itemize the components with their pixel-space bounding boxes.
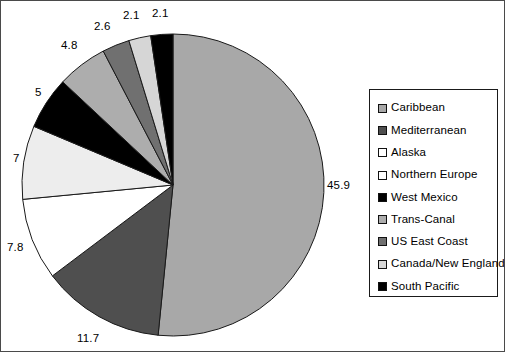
legend-swatch-mediterranean <box>378 126 387 135</box>
legend-row[interactable]: Caribbean <box>378 97 497 119</box>
legend-row[interactable]: US East Coast <box>378 231 497 253</box>
legend-item-label: Alaska <box>391 147 426 159</box>
legend-swatch-northern-europe <box>378 171 387 180</box>
pie-chart-screenshot: 45.911.77.8754.82.62.12.1 CaribbeanMedit… <box>0 0 505 352</box>
legend-swatch-trans-canal <box>378 215 387 224</box>
pie-slice-value-label: 5 <box>35 87 42 99</box>
pie-chart-svg <box>1 1 361 352</box>
legend-swatch-canada-new-england <box>378 260 387 269</box>
legend-swatch-west-mexico <box>378 193 387 202</box>
pie-slice-value-label: 4.8 <box>61 40 78 52</box>
pie-slice-value-label: 7.8 <box>7 242 24 254</box>
pie-slice-value-label: 2.1 <box>123 10 140 22</box>
pie-chart-figure: 45.911.77.8754.82.62.12.1 <box>1 1 361 352</box>
legend-row-list: CaribbeanMediterraneanAlaskaNorthern Eur… <box>378 97 497 298</box>
pie-slice-value-label: 2.6 <box>94 21 111 33</box>
legend-item-label: Northern Europe <box>391 169 478 181</box>
legend-item-label: West Mexico <box>391 192 458 204</box>
legend-item-label: Mediterranean <box>391 125 466 137</box>
legend-item-label: Trans-Canal <box>391 214 455 226</box>
pie-slice-value-label: 11.7 <box>77 333 99 345</box>
legend-row[interactable]: West Mexico <box>378 186 497 208</box>
legend-row[interactable]: Mediterranean <box>378 119 497 141</box>
legend-swatch-south-pacific <box>378 282 387 291</box>
pie-slice-value-label: 2.1 <box>152 8 169 20</box>
pie-slice-group <box>22 34 324 336</box>
legend-item-label: US East Coast <box>391 236 468 248</box>
legend-item-label: South Pacific <box>391 281 459 293</box>
legend-swatch-us-east-coast <box>378 237 387 246</box>
pie-slice[interactable] <box>158 34 324 336</box>
legend-swatch-caribbean <box>378 104 387 113</box>
legend-row[interactable]: South Pacific <box>378 275 497 297</box>
legend-row[interactable]: Canada/New England <box>378 253 497 275</box>
legend-row[interactable]: Trans-Canal <box>378 208 497 230</box>
legend-swatch-alaska <box>378 148 387 157</box>
pie-slice-value-label: 45.9 <box>327 180 350 192</box>
chart-legend: CaribbeanMediterraneanAlaskaNorthern Eur… <box>369 89 498 297</box>
pie-slice-value-label: 7 <box>13 153 20 165</box>
legend-item-label: Caribbean <box>391 102 445 114</box>
legend-item-label: Canada/New England <box>391 258 505 270</box>
legend-row[interactable]: Alaska <box>378 142 497 164</box>
legend-row[interactable]: Northern Europe <box>378 164 497 186</box>
